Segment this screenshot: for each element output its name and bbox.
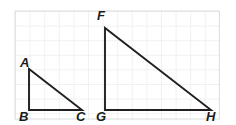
vertex-label-g: G — [96, 110, 106, 123]
vertex-label-c: C — [76, 110, 85, 123]
geometry-figure: A B C F G H — [0, 0, 236, 125]
figure-canvas — [0, 0, 236, 125]
vertex-label-f: F — [97, 9, 105, 22]
grid-lines — [15, 11, 219, 119]
vertex-label-a: A — [20, 56, 29, 69]
vertex-label-b: B — [19, 110, 28, 123]
vertex-label-h: H — [206, 110, 215, 123]
